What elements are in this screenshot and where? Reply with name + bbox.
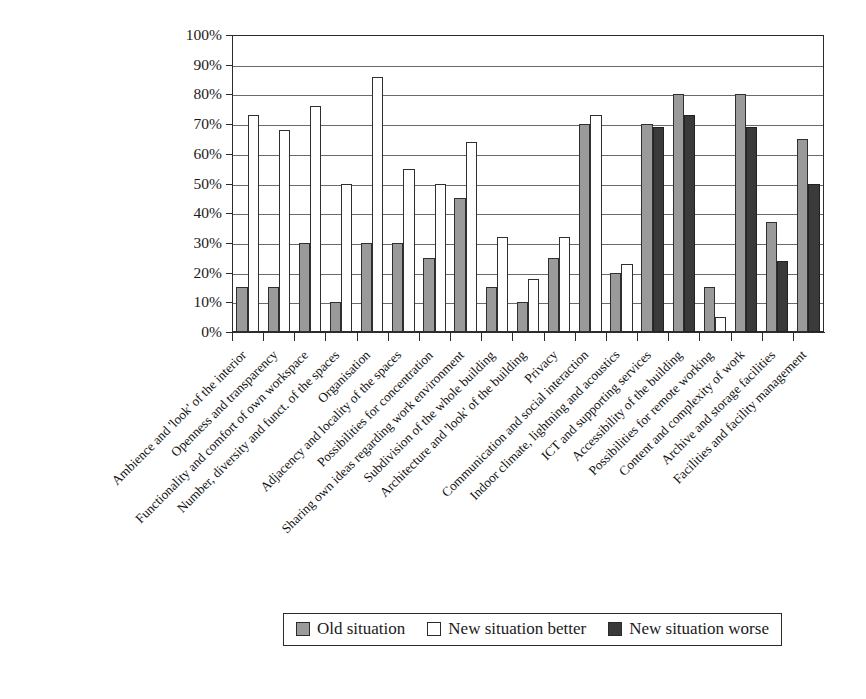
bar: [766, 222, 777, 332]
bar: [330, 302, 341, 332]
bar: [454, 198, 465, 332]
bar-group: [481, 35, 512, 332]
bar-group: [357, 35, 388, 332]
bar-series-container: [232, 35, 824, 332]
bar-group: [232, 35, 263, 332]
legend-label: New situation worse: [629, 619, 769, 639]
bar-group: [793, 35, 824, 332]
y-tick-label: 30%: [162, 235, 222, 251]
y-tick-label: 10%: [162, 295, 222, 311]
legend-label: New situation better: [448, 619, 586, 639]
legend-swatch-icon: [608, 622, 622, 636]
bar-group: [731, 35, 762, 332]
bar-group: [419, 35, 450, 332]
y-tick-label: 60%: [162, 146, 222, 162]
bar: [435, 184, 446, 333]
bar: [423, 258, 434, 332]
legend-label: Old situation: [317, 619, 405, 639]
bar-group: [263, 35, 294, 332]
bar-group: [450, 35, 481, 332]
bar: [735, 94, 746, 332]
chart-legend: Old situationNew situation betterNew sit…: [283, 613, 782, 646]
bar-group: [575, 35, 606, 332]
y-tick-label: 40%: [162, 205, 222, 221]
bar: [579, 124, 590, 332]
bar-group: [762, 35, 793, 332]
y-tick-label: 100%: [162, 27, 222, 43]
bar: [248, 115, 259, 332]
y-tick-label: 80%: [162, 87, 222, 103]
bar: [403, 169, 414, 332]
bar: [621, 264, 632, 332]
bar: [777, 261, 788, 332]
bar: [808, 184, 819, 333]
legend-item: New situation better: [427, 619, 586, 639]
category-axis-labels: Ambience and 'look' of the interiorOpenn…: [0, 332, 866, 612]
y-axis-tick-labels: 0%10%20%30%40%50%60%70%80%90%100%: [166, 35, 226, 333]
bar: [673, 94, 684, 332]
bar: [610, 273, 621, 332]
bar: [279, 130, 290, 332]
y-tick-label: 90%: [162, 57, 222, 73]
bar: [653, 127, 664, 332]
bar-group: [388, 35, 419, 332]
bar-chart-figure: 0%10%20%30%40%50%60%70%80%90%100% Ambien…: [0, 0, 866, 699]
legend-swatch-icon: [427, 622, 441, 636]
bar: [497, 237, 508, 332]
bar: [715, 317, 726, 332]
bar-group: [512, 35, 543, 332]
bar-group: [668, 35, 699, 332]
bar: [486, 287, 497, 332]
bar: [466, 142, 477, 332]
bar: [372, 77, 383, 332]
bar: [528, 279, 539, 332]
y-tick-label: 20%: [162, 265, 222, 281]
bar-group: [637, 35, 668, 332]
bar: [392, 243, 403, 332]
legend-item: Old situation: [296, 619, 405, 639]
bar: [684, 115, 695, 332]
bar: [268, 287, 279, 332]
y-tick-label: 70%: [162, 116, 222, 132]
bar: [236, 287, 247, 332]
bar: [704, 287, 715, 332]
bar: [299, 243, 310, 332]
bar: [341, 184, 352, 333]
bar: [559, 237, 570, 332]
bar: [746, 127, 757, 332]
bar-group: [325, 35, 356, 332]
bar: [361, 243, 372, 332]
bar: [590, 115, 601, 332]
legend-swatch-icon: [296, 622, 310, 636]
bar: [548, 258, 559, 332]
bar-group: [699, 35, 730, 332]
bar: [310, 106, 321, 332]
bar: [641, 124, 652, 332]
bar-group: [544, 35, 575, 332]
legend-item: New situation worse: [608, 619, 769, 639]
bar-group: [294, 35, 325, 332]
bar: [517, 302, 528, 332]
bar-group: [606, 35, 637, 332]
bar: [797, 139, 808, 332]
y-tick-label: 50%: [162, 176, 222, 192]
